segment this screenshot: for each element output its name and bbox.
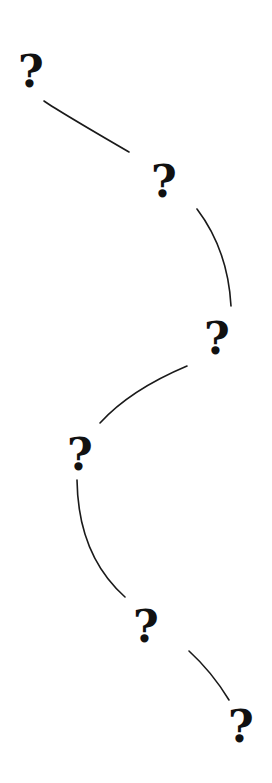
question-mark-node-3: ? (204, 317, 230, 361)
connector-q5-q6 (189, 651, 229, 700)
connector-q4-q5 (77, 480, 125, 597)
question-mark-node-5: ? (133, 605, 159, 649)
question-chain-diagram: ? ? ? ? ? ? (0, 0, 272, 783)
connector-q1-q2 (44, 101, 129, 152)
connector-q3-q4 (100, 366, 187, 423)
question-mark-node-1: ? (18, 50, 44, 94)
question-mark-node-4: ? (67, 433, 93, 477)
question-mark-node-2: ? (151, 160, 177, 204)
question-mark-node-6: ? (228, 705, 254, 749)
connector-q2-q3 (197, 209, 231, 306)
connector-lines (0, 0, 272, 783)
